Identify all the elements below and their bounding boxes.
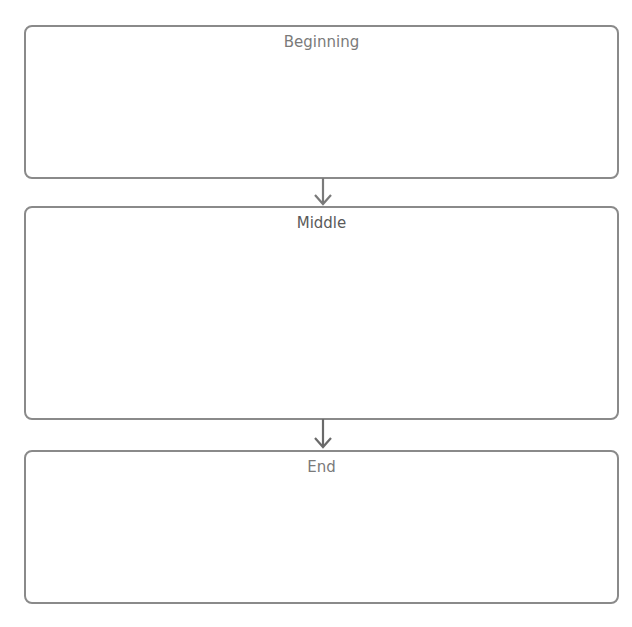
arrow-down-icon: [313, 419, 333, 451]
middle-label: Middle: [26, 214, 617, 232]
end-label: End: [26, 458, 617, 476]
end-box: End: [24, 450, 619, 604]
arrow-down-icon: [313, 178, 333, 208]
beginning-box: Beginning: [24, 25, 619, 179]
beginning-label: Beginning: [26, 33, 617, 51]
middle-box: Middle: [24, 206, 619, 420]
